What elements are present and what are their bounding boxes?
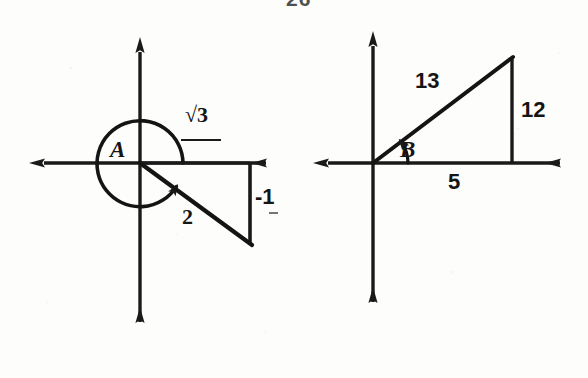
side-label-thirteen: 13 [415,70,439,92]
scanned-page: 26 A √3 -1 2 [0,0,588,378]
angle-label-b: B [400,138,415,161]
figure-angle-b [0,0,588,378]
side-label-five: 5 [448,171,460,193]
side-label-twelve: 12 [521,99,545,121]
terminal-side [373,57,513,163]
